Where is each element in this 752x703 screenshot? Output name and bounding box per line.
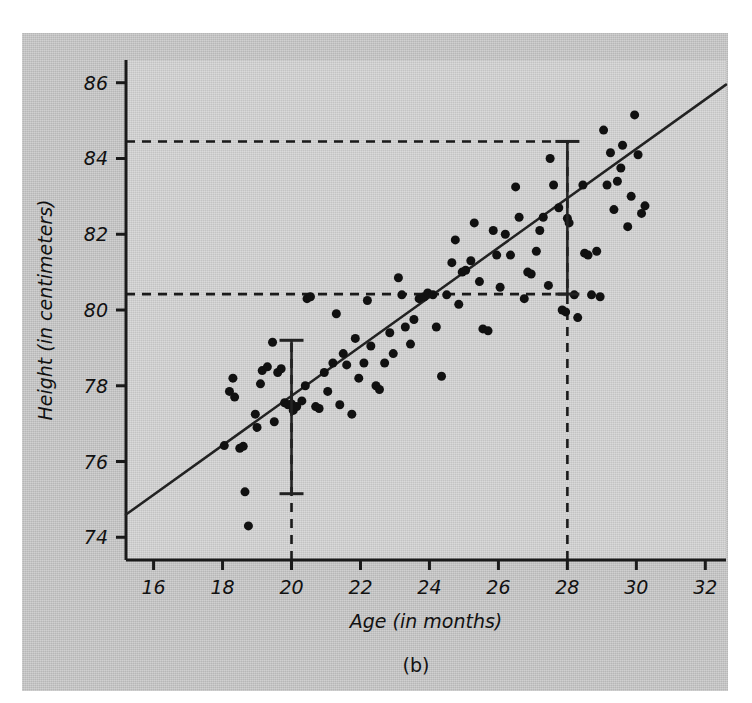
data-point [380, 359, 389, 368]
data-point [256, 379, 265, 388]
data-point [251, 410, 260, 419]
y-tick-label-74: 74 [84, 526, 108, 548]
data-point [492, 251, 501, 260]
data-point [342, 360, 351, 369]
data-point [539, 213, 548, 222]
data-point [397, 290, 406, 299]
data-point [401, 323, 410, 332]
data-point [587, 290, 596, 299]
x-tick-label-26: 26 [486, 576, 510, 598]
data-point [253, 423, 262, 432]
data-point [363, 296, 372, 305]
data-point [578, 181, 587, 190]
data-point [366, 341, 375, 350]
data-point [565, 218, 574, 227]
data-point [385, 328, 394, 337]
data-point [359, 359, 368, 368]
data-point [406, 340, 415, 349]
data-point [335, 400, 344, 409]
data-point [616, 163, 625, 172]
data-point [546, 154, 555, 163]
data-point [306, 292, 315, 301]
data-point [599, 126, 608, 135]
data-point [470, 218, 479, 227]
data-point [618, 141, 627, 150]
y-tick-label-82: 82 [84, 223, 108, 245]
data-point [442, 290, 451, 299]
data-point [554, 203, 563, 212]
prediction-interval-at-28 [555, 141, 579, 294]
tick-labels-layer: 74767880828486161820222426283032 [84, 72, 718, 598]
data-point [230, 393, 239, 402]
data-point [606, 148, 615, 157]
data-point [515, 213, 524, 222]
data-point [527, 270, 536, 279]
data-point [394, 273, 403, 282]
data-point [454, 300, 463, 309]
data-point [627, 192, 636, 201]
data-point [428, 290, 437, 299]
data-point [532, 247, 541, 256]
data-point [511, 182, 520, 191]
data-point [544, 281, 553, 290]
data-point [339, 349, 348, 358]
data-point [297, 396, 306, 405]
data-point [328, 359, 337, 368]
y-tick-label-86: 86 [84, 72, 108, 94]
axes-layer [116, 60, 726, 570]
y-tick-label-76: 76 [84, 451, 108, 473]
data-point [584, 251, 593, 260]
data-point [240, 487, 249, 496]
data-point [244, 521, 253, 530]
y-tick-label-78: 78 [84, 375, 108, 397]
data-point [596, 292, 605, 301]
data-point [351, 334, 360, 343]
figure-caption: (b) [403, 654, 430, 676]
data-point [347, 410, 356, 419]
data-point [277, 364, 286, 373]
data-point [520, 294, 529, 303]
data-point [389, 349, 398, 358]
data-point [592, 247, 601, 256]
data-point [220, 441, 229, 450]
data-point [461, 266, 470, 275]
error-bars-layer [280, 141, 580, 493]
data-points-layer [220, 110, 650, 530]
figure-container: 74767880828486161820222426283032 Age (in… [0, 0, 752, 703]
data-point [301, 381, 310, 390]
data-point [561, 307, 570, 316]
x-tick-label-16: 16 [141, 576, 165, 598]
data-point [447, 258, 456, 267]
data-point [466, 256, 475, 265]
x-axis-title: Age (in months) [348, 610, 503, 632]
data-point [609, 205, 618, 214]
data-point [496, 283, 505, 292]
x-tick-label-28: 28 [555, 576, 579, 598]
data-point [320, 368, 329, 377]
x-tick-label-32: 32 [693, 576, 717, 598]
data-point [323, 387, 332, 396]
data-point [375, 385, 384, 394]
data-point [451, 235, 460, 244]
data-point [228, 374, 237, 383]
data-point [630, 110, 639, 119]
x-tick-label-22: 22 [348, 576, 372, 598]
y-tick-label-80: 80 [84, 299, 108, 321]
scatter-chart: 74767880828486161820222426283032 Age (in… [0, 0, 752, 703]
y-tick-label-84: 84 [84, 147, 108, 169]
data-point [506, 251, 515, 260]
y-axis-title: Height (in centimeters) [34, 200, 56, 421]
prediction-interval-at-20 [280, 340, 304, 493]
data-point [623, 222, 632, 231]
data-point [437, 372, 446, 381]
data-point [409, 315, 418, 324]
data-point [634, 150, 643, 159]
data-point [613, 177, 622, 186]
data-point [239, 442, 248, 451]
data-point [535, 226, 544, 235]
data-point [484, 326, 493, 335]
data-point [263, 362, 272, 371]
data-point [270, 417, 279, 426]
data-point [332, 309, 341, 318]
data-point [354, 374, 363, 383]
